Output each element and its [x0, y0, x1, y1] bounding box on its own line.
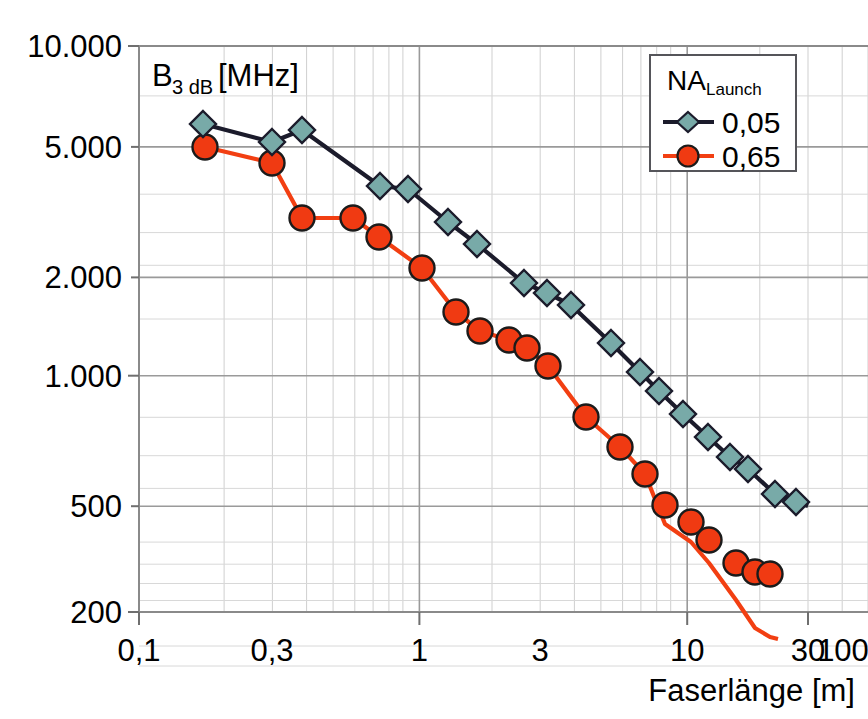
chart-figure: 10.000 5.000 2.000 1.000 500 200 0,1 0,3…: [0, 0, 868, 719]
y-tick-label-2000: 2.000: [44, 260, 122, 295]
x-tick-label-100: 100: [817, 633, 868, 668]
legend-title: NA: [667, 65, 706, 96]
circle-marker-icon: [678, 146, 699, 167]
y-tick-label-10000: 10.000: [27, 29, 122, 64]
legend-label-0-65: 0,65: [722, 140, 780, 173]
y-axis-title-subscript: 3 dB: [172, 76, 213, 98]
legend-label-0-05: 0,05: [722, 106, 780, 139]
x-tick-label-1: 1: [411, 633, 428, 668]
x-tick-label-10: 10: [670, 633, 704, 668]
x-axis-title: Faserlänge [m]: [648, 673, 855, 708]
legend: NA Launch 0,05 0,65: [650, 55, 796, 173]
y-tick-label-5000: 5.000: [44, 130, 122, 165]
x-tick-label-3: 3: [531, 633, 548, 668]
y-tick-label-1000: 1.000: [44, 359, 122, 394]
y-tick-label-200: 200: [70, 595, 122, 630]
line-chart-svg: 10.000 5.000 2.000 1.000 500 200 0,1 0,3…: [0, 0, 868, 719]
y-tick-label-500: 500: [70, 489, 122, 524]
x-tick-label-0-1: 0,1: [117, 633, 160, 668]
y-axis-title-main: B: [152, 58, 173, 93]
legend-title-subscript: Launch: [706, 80, 762, 99]
y-axis-title-unit: [MHz]: [218, 58, 299, 93]
x-tick-label-0-3: 0,3: [250, 633, 293, 668]
